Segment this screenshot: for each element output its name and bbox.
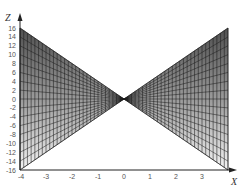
z-tick-label: -8	[10, 131, 16, 138]
z-tick-label: 0	[12, 96, 16, 103]
z-tick-label: -6	[10, 122, 16, 129]
z-tick-label: -14	[6, 158, 16, 165]
x-tick-labels: -4-3-2-10123	[18, 173, 204, 180]
x-tick-label: -4	[18, 173, 24, 180]
z-tick-label: -2	[10, 104, 16, 111]
z-axis-label: Z	[5, 12, 11, 23]
z-tick-label: 16	[8, 25, 16, 32]
x-tick-label: 3	[200, 173, 204, 180]
z-tick-label: 8	[12, 60, 16, 67]
z-tick-label: 10	[8, 51, 16, 58]
z-tick-label: -10	[6, 140, 16, 147]
z-tick-labels: 1614121086420-2-4-6-8-10-12-14-16	[6, 25, 16, 174]
z-tick-label: -4	[10, 113, 16, 120]
x-axis-arrow-icon	[229, 168, 237, 173]
x-tick-label: -1	[95, 173, 101, 180]
z-tick-label: -16	[6, 167, 16, 174]
cone-surface-chart: Z X 1614121086420-2-4-6-8-10-12-14-16 -4…	[0, 0, 250, 191]
z-axis-arrow-icon	[18, 13, 23, 21]
x-tick-label: -2	[69, 173, 75, 180]
surface	[20, 28, 228, 170]
z-tick-label: 12	[8, 42, 16, 49]
z-tick-label: 2	[12, 87, 16, 94]
z-tick-label: 6	[12, 69, 16, 76]
x-tick-label: 1	[148, 173, 152, 180]
x-tick-label: 2	[174, 173, 178, 180]
x-axis-label: X	[230, 176, 238, 187]
z-tick-label: -12	[6, 149, 16, 156]
z-tick-label: 14	[8, 33, 16, 40]
x-tick-label: 0	[122, 173, 126, 180]
z-tick-label: 4	[12, 78, 16, 85]
x-tick-label: -3	[43, 173, 49, 180]
